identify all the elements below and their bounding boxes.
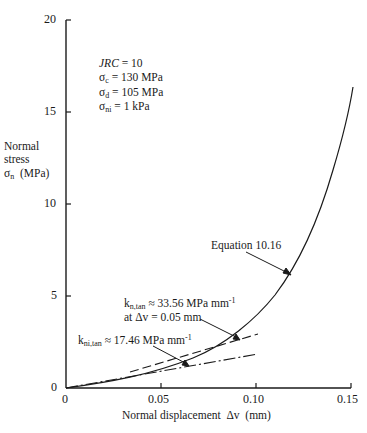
param-jrc: JRC = 10	[99, 56, 143, 70]
x-tick-015: 0.15	[337, 392, 358, 406]
chart-canvas	[0, 0, 367, 433]
x-axis-label: Normal displacement Δv (mm)	[122, 408, 271, 422]
equation-label: Equation 10.16	[211, 238, 281, 252]
x-ticks	[161, 383, 351, 388]
y-tick-0: 0	[51, 380, 57, 394]
kni-tan-label: kni,tan ≈ 17.46 MPa mm-1	[78, 333, 192, 347]
y-axis-label-line1: Normal	[4, 139, 39, 153]
x-tick-010: 0.10	[243, 392, 264, 406]
y-tick-5: 5	[51, 288, 57, 302]
y-tick-15: 15	[44, 104, 56, 118]
param-sigma-d: σd = 105 MPa	[99, 85, 163, 99]
kn-tan-label: kn,tan ≈ 33.56 MPa mm-1	[124, 296, 236, 310]
x-tick-0: 0	[62, 392, 68, 406]
y-ticks	[66, 20, 71, 296]
param-sigma-ni: σni = 1 kPa	[99, 99, 150, 113]
initial-tangent-line	[66, 354, 258, 388]
y-axis-label-line2: stress	[4, 152, 30, 166]
y-tick-10: 10	[44, 196, 56, 210]
kn-tan-at-label: at Δv = 0.05 mm	[124, 310, 201, 324]
y-axis-label-line3: σn (MPa)	[4, 166, 49, 180]
y-tick-20: 20	[44, 12, 56, 26]
param-sigma-c: σc = 130 MPa	[99, 70, 163, 84]
x-tick-005: 0.05	[148, 392, 169, 406]
